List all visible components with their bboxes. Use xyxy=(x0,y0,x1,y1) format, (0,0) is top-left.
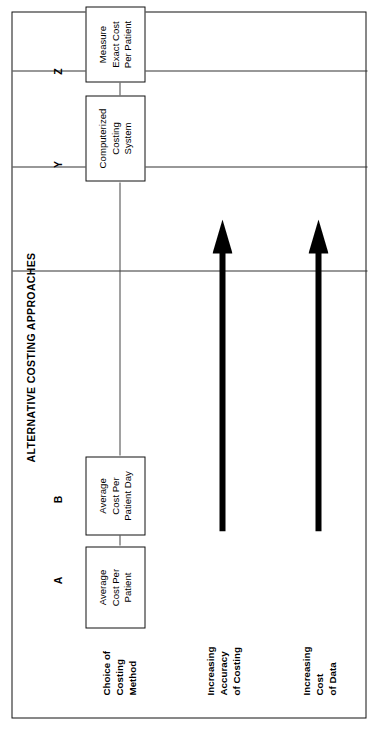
figure-title: ALTERNATIVE COSTING APPROACHES xyxy=(24,237,36,477)
process-box-b: Average Cost Per Patient Day xyxy=(85,456,145,535)
row-label-method-line-3: Method xyxy=(126,575,139,695)
process-box-y-line-3: System xyxy=(121,108,133,168)
process-box-z-line-3: Per Patient xyxy=(121,20,133,67)
row-label-cost-line-3: of Data xyxy=(326,575,339,695)
row-label-method-line-1: Choice of xyxy=(100,575,113,695)
stage-letter-z: Z xyxy=(51,58,63,84)
row-label-cost-line-1: Increasing xyxy=(300,575,313,695)
process-box-b-line-3: Patient Day xyxy=(121,471,133,521)
rotated-diagram-stage: ALTERNATIVE COSTING APPROACHES A B Y Z A… xyxy=(0,0,378,729)
process-box-y-line-2: Costing xyxy=(109,108,121,168)
row-label-accuracy-line-3: of Costing xyxy=(230,575,243,695)
column-divider-2 xyxy=(12,166,367,167)
row-label-increasing-cost-of-data: Increasing Cost of Data xyxy=(300,575,339,695)
increasing-cost-arrow-icon xyxy=(308,219,328,531)
process-box-y: Computerized Costing System xyxy=(85,95,145,181)
increasing-accuracy-arrow-icon xyxy=(212,219,232,531)
row-label-choice-of-costing-method: Choice of Costing Method xyxy=(100,575,139,695)
connector-y-to-z xyxy=(119,82,120,95)
row-label-cost-line-2: Cost xyxy=(313,575,326,695)
stage-letter-a: A xyxy=(51,567,63,593)
row-label-accuracy-line-2: Accuracy xyxy=(217,575,230,695)
row-label-increasing-accuracy-of-costing: Increasing Accuracy of Costing xyxy=(204,575,243,695)
process-box-z-line-1: Measure xyxy=(96,20,108,67)
diagram-frame: ALTERNATIVE COSTING APPROACHES A B Y Z A… xyxy=(11,11,366,718)
row-label-method-line-2: Costing xyxy=(113,575,126,695)
column-divider-3 xyxy=(12,70,367,71)
row-label-accuracy-line-1: Increasing xyxy=(204,575,217,695)
stage-letter-y: Y xyxy=(51,151,63,177)
process-box-b-line-1: Average xyxy=(96,471,108,521)
stage-letter-b: B xyxy=(51,486,63,512)
process-box-b-line-2: Cost Per xyxy=(109,471,121,521)
process-box-z-line-2: Exact Cost xyxy=(109,20,121,67)
figure-alternative-costing-approaches: ALTERNATIVE COSTING APPROACHES A B Y Z A… xyxy=(0,0,378,729)
process-box-z: Measure Exact Cost Per Patient xyxy=(85,6,145,82)
connector-b-to-y xyxy=(119,182,120,455)
process-box-y-line-1: Computerized xyxy=(96,108,108,168)
